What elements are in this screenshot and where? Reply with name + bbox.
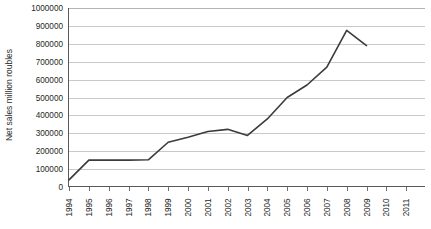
- y-axis-tick-label: 300000: [36, 129, 63, 138]
- y-axis-tick-labels: 0100000200000300000400000500000600000700…: [16, 8, 66, 187]
- x-axis-tick-label: 2004: [261, 191, 273, 225]
- x-axis-tick-label-text: 2002: [223, 198, 232, 216]
- x-axis-tick-label-text: 2004: [263, 198, 272, 216]
- x-axis-tick-label-text: 2001: [203, 198, 212, 216]
- x-axis-tick-label: 2003: [242, 191, 254, 225]
- x-axis-tick-labels: 1994199519961997199819992000200120022003…: [68, 191, 425, 229]
- x-axis-tick-label: 1997: [123, 191, 135, 225]
- y-axis-tick-label: 200000: [36, 147, 63, 156]
- x-axis-tick-label: 2010: [380, 191, 392, 225]
- x-axis-tick-label-text: 1995: [84, 198, 93, 216]
- x-axis-tick-label-text: 1994: [65, 198, 74, 216]
- x-axis-tick-label-text: 1997: [124, 198, 133, 216]
- y-axis-tick-label: 800000: [36, 39, 63, 48]
- x-axis-tick-label-text: 2009: [362, 198, 371, 216]
- y-axis-tick-label: 600000: [36, 75, 63, 84]
- x-axis-tick-label-text: 2006: [303, 198, 312, 216]
- x-axis-tick-label-text: 2011: [402, 199, 411, 217]
- x-axis-tick-label-text: 2003: [243, 198, 252, 216]
- x-axis-tick-label: 2000: [182, 191, 194, 225]
- x-axis-tick-label: 1999: [162, 191, 174, 225]
- x-axis-tick-label-text: 1996: [104, 198, 113, 216]
- x-axis-tick-label-text: 1998: [144, 198, 153, 216]
- y-axis-title-label: Net sales million roubles: [4, 49, 14, 141]
- x-axis-tick-label: 1995: [83, 191, 95, 225]
- y-axis-tick-label: 100000: [36, 165, 63, 174]
- x-axis-tick-label: 2008: [341, 191, 353, 225]
- x-axis-tick-label-text: 2008: [342, 198, 351, 216]
- x-axis-tick-label: 2009: [361, 191, 373, 225]
- x-axis-tick-label: 2006: [301, 191, 313, 225]
- y-axis-tick-label: 1000000: [31, 4, 63, 13]
- series-line: [68, 8, 425, 187]
- x-axis-tick-label: 1994: [63, 191, 75, 225]
- x-axis-tick-label-text: 1999: [164, 198, 173, 216]
- x-axis-tick-label-text: 2010: [382, 198, 391, 216]
- x-axis-tick-label: 2011: [400, 191, 412, 225]
- x-axis-tick-label: 2005: [281, 191, 293, 225]
- x-axis-tick-label-text: 2000: [184, 198, 193, 216]
- y-axis-tick-label: 900000: [36, 21, 63, 30]
- x-axis-tick-label-text: 2007: [322, 198, 331, 216]
- line-chart: Net sales million roubles 01000002000003…: [0, 0, 431, 229]
- y-axis-tick-label: 400000: [36, 111, 63, 120]
- x-axis-tick-label: 2002: [222, 191, 234, 225]
- x-axis-tick-label-text: 2005: [283, 198, 292, 216]
- x-axis-tick-label: 1996: [103, 191, 115, 225]
- x-axis-tick-label: 1998: [142, 191, 154, 225]
- x-axis-tick-label: 2001: [202, 191, 214, 225]
- y-axis-tick-label: 700000: [36, 57, 63, 66]
- y-axis-tick-label: 500000: [36, 93, 63, 102]
- plot-area: [68, 8, 425, 187]
- x-axis-tick-label: 2007: [321, 191, 333, 225]
